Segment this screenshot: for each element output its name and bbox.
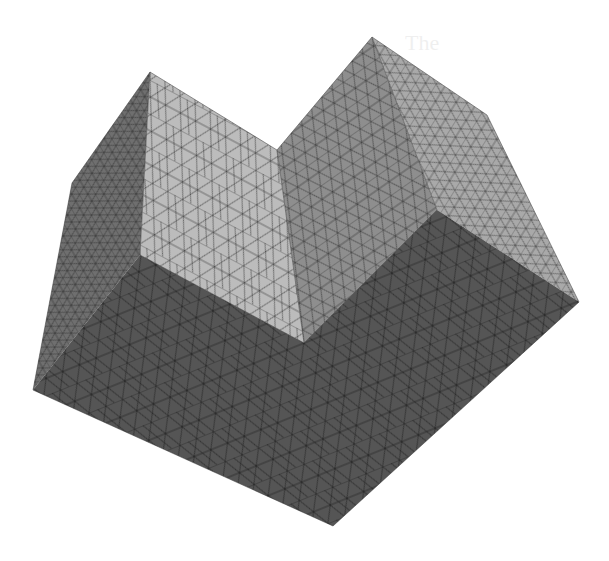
mesh-render <box>0 0 609 561</box>
